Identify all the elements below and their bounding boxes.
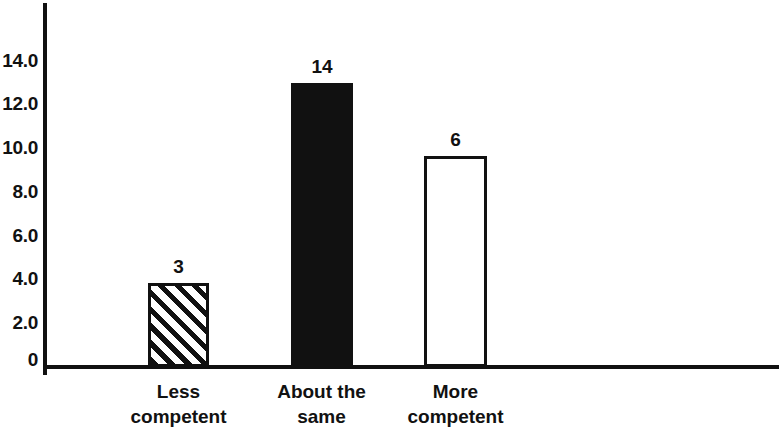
y-axis-tick-labels: 14.0 12.0 10.0 8.0 6.0 4.0 2.0 0 xyxy=(0,0,38,438)
bar-value-label-more-competent: 6 xyxy=(424,130,487,149)
y-axis-tick-label: 12.0 xyxy=(0,94,38,113)
y-axis-tick-label: 4.0 xyxy=(0,269,38,288)
y-axis-tick-label: 14.0 xyxy=(0,51,38,70)
x-axis-category-label-about-the-same: About the same xyxy=(256,379,387,429)
bar-chart: 14.0 12.0 10.0 8.0 6.0 4.0 2.0 0 3 14 6 … xyxy=(0,0,779,438)
x-axis-category-label-less-competent: Less competent xyxy=(113,379,244,429)
y-axis-tick-label: 6.0 xyxy=(0,226,38,245)
y-axis-tick-label: 2.0 xyxy=(0,313,38,332)
x-axis-category-label-more-competent: More competent xyxy=(390,379,521,429)
y-axis-tick-label: 10.0 xyxy=(0,138,38,157)
y-axis-tick-label: 0 xyxy=(0,350,38,369)
bar-value-label-less-competent: 3 xyxy=(148,257,209,276)
y-axis-line xyxy=(43,3,47,375)
y-axis-tick-label: 8.0 xyxy=(0,182,38,201)
bar-value-label-about-the-same: 14 xyxy=(291,57,353,76)
bar-less-competent xyxy=(148,283,209,367)
bar-more-competent xyxy=(424,156,487,367)
bar-about-the-same xyxy=(291,83,353,367)
